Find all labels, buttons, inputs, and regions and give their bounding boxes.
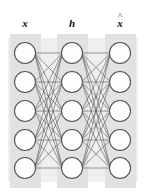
node-hidden-4 xyxy=(62,130,83,151)
layer-label-input-text: x xyxy=(22,17,28,29)
layer-label-hidden: h xyxy=(69,18,75,29)
node-output-5 xyxy=(110,158,131,179)
node-hidden-1 xyxy=(62,43,83,64)
node-hidden-3 xyxy=(62,101,83,122)
node-output-3 xyxy=(110,101,131,122)
node-input-3 xyxy=(15,101,36,122)
node-group xyxy=(15,43,131,179)
circumflex-accent-icon: ^ xyxy=(118,12,122,21)
node-output-4 xyxy=(110,130,131,151)
node-hidden-2 xyxy=(62,72,83,93)
node-output-1 xyxy=(110,43,131,64)
node-output-2 xyxy=(110,72,131,93)
node-input-1 xyxy=(15,43,36,64)
layer-label-input: x xyxy=(22,18,28,29)
layer-label-hidden-text: h xyxy=(69,17,75,29)
node-input-2 xyxy=(15,72,36,93)
layer-label-output: ^ x xyxy=(117,18,123,29)
autoencoder-figure: x h ^ x xyxy=(0,0,146,191)
node-hidden-5 xyxy=(62,158,83,179)
node-input-5 xyxy=(15,158,36,179)
node-input-4 xyxy=(15,130,36,151)
